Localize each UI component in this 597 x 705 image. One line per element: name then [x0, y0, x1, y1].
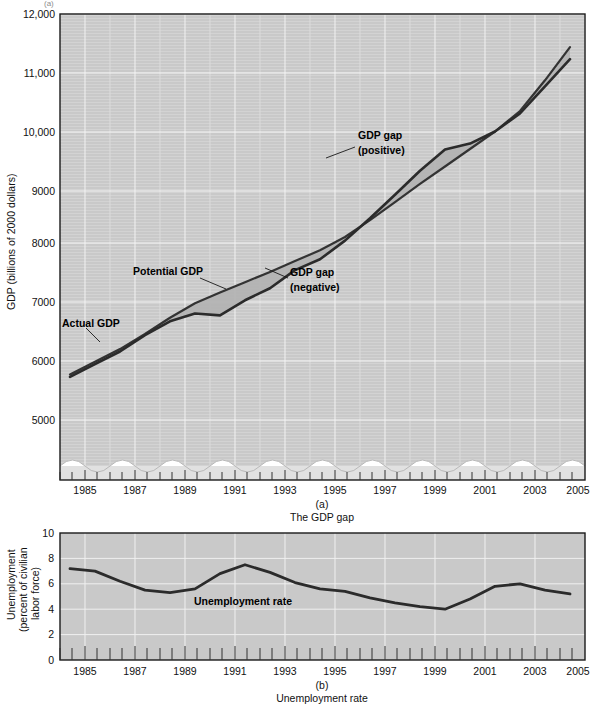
panel-b-xtick-1985: 1985: [73, 665, 97, 677]
panel-a-letter: (a): [316, 498, 329, 510]
panel-a-ytick-10000: 10,000: [23, 126, 55, 138]
panel-b-xtick-1987: 1987: [123, 665, 147, 677]
panel-a-xtick-1997: 1997: [373, 484, 397, 496]
label-gdp-gap-positive-line1: GDP gap: [358, 129, 402, 141]
figure-root: (a): [0, 0, 597, 705]
panel-a-xtick-2001: 2001: [473, 484, 497, 496]
panel-b-plot-background: [60, 533, 585, 660]
panel-a-y-axis-title: GDP (billions of 2000 dollars): [5, 174, 17, 310]
label-gdp-gap-negative-line2: (negative): [290, 281, 340, 293]
panel-b-ytick-6: 6: [48, 577, 54, 589]
figure-svg: (a): [0, 0, 597, 705]
panel-b-ytick-10: 10: [42, 527, 54, 539]
panel-a-ytick-8000: 8000: [32, 237, 56, 249]
label-gdp-gap-negative-line1: GDP gap: [290, 266, 334, 278]
panel-b-xtick-1989: 1989: [173, 665, 197, 677]
panel-b-letter: (b): [316, 679, 329, 691]
panel-b-ytick-0: 0: [48, 654, 54, 666]
panel-b-y-axis-title-line1: Unemployment: [5, 549, 17, 620]
panel-b-ytick-2: 2: [48, 628, 54, 640]
panel-b-xtick-1995: 1995: [323, 665, 347, 677]
panel-a-plot-background: [60, 14, 585, 466]
panel-a-ytick-5000: 5000: [32, 414, 56, 426]
panel-a-xtick-2003: 2003: [523, 484, 547, 496]
panel-b-xtick-2003: 2003: [523, 665, 547, 677]
panel-a-xtick-1991: 1991: [223, 484, 247, 496]
panel-a-xtick-1999: 1999: [423, 484, 447, 496]
panel-a-ytick-6000: 6000: [32, 355, 56, 367]
label-actual-gdp: Actual GDP: [62, 317, 120, 329]
label-potential-gdp: Potential GDP: [133, 265, 203, 277]
panel-a-ytick-9000: 9000: [32, 185, 56, 197]
panel-b-xtick-2005: 2005: [566, 665, 590, 677]
panel-a-xtick-1993: 1993: [273, 484, 297, 496]
panel-b-xtick-2001: 2001: [473, 665, 497, 677]
panel-b-y-axis-title-line3: labor force): [29, 567, 41, 620]
top-cropped-fragment: (a): [44, 0, 54, 8]
panel-a-ytick-12000: 12,000: [23, 8, 55, 20]
panel-b-xtick-1993: 1993: [273, 665, 297, 677]
panel-b-caption: Unemployment rate: [276, 692, 368, 704]
panel-a-xtick-1985: 1985: [73, 484, 97, 496]
panel-b-xtick-1997: 1997: [373, 665, 397, 677]
panel-a-xtick-1989: 1989: [173, 484, 197, 496]
panel-a-xtick-2005: 2005: [566, 484, 590, 496]
panel-a-caption: The GDP gap: [290, 511, 354, 523]
panel-b-xtick-1991: 1991: [223, 665, 247, 677]
panel-b-ytick-4: 4: [48, 603, 54, 615]
label-unemployment-rate: Unemployment rate: [194, 595, 292, 607]
panel-a-xtick-1995: 1995: [323, 484, 347, 496]
panel-b-y-axis-title-line2: (percent of civilian: [17, 547, 29, 632]
panel-a-ytick-11000: 11,000: [24, 67, 55, 79]
panel-a-ytick-7000: 7000: [32, 296, 56, 308]
panel-a-chart: Potential GDP Actual GDP GDP gap (negati…: [5, 8, 590, 523]
label-gdp-gap-positive-line2: (positive): [358, 144, 405, 156]
panel-b-xtick-1999: 1999: [423, 665, 447, 677]
panel-b-ytick-8: 8: [48, 552, 54, 564]
panel-a-xtick-1987: 1987: [123, 484, 147, 496]
